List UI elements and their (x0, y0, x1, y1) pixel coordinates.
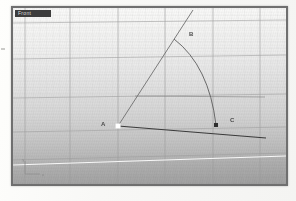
point-label-c: C (230, 117, 235, 123)
horizontal-construction-line[interactable] (135, 96, 265, 97)
line-a-to-c-extended[interactable] (118, 126, 266, 138)
cad-viewport[interactable]: A B C y x Front (13, 8, 286, 184)
point-marker-a[interactable] (116, 124, 121, 129)
line-a-to-b-extended[interactable] (118, 10, 193, 126)
viewport-title-tab[interactable]: Front (15, 10, 51, 17)
point-marker-c[interactable] (214, 123, 218, 127)
point-label-b: B (189, 31, 194, 37)
point-label-a: A (101, 121, 106, 127)
axis-label-y: y (22, 158, 24, 162)
scan-artifact (1, 48, 5, 50)
scan-page: A B C y x Front (0, 0, 296, 201)
world-axes-icon: y x (21, 158, 49, 180)
axis-label-x: x (42, 172, 44, 177)
geometry-layer[interactable]: A B C (13, 8, 286, 184)
arc-b-to-c[interactable] (174, 39, 216, 125)
